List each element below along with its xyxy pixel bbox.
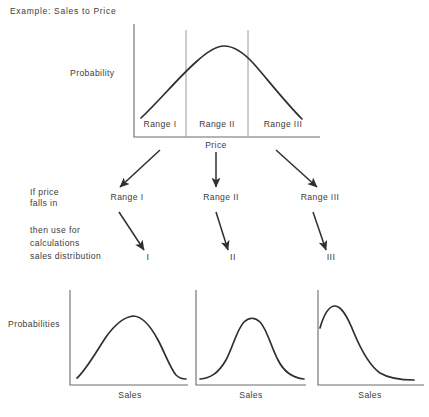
top-chart-y-axis-label: Probability <box>70 68 115 79</box>
top-chart-range-2-label: Range II <box>199 119 235 130</box>
result-arrow-1 <box>119 212 144 250</box>
branch-arrow-range-3 <box>276 150 317 187</box>
bottom-chart-3-curve <box>320 306 414 380</box>
top-chart-curve <box>141 46 302 119</box>
instruction-text-line-2: calculations <box>30 237 80 249</box>
instruction-text-line-1: then use for <box>30 224 80 236</box>
branch-arrows-level-2 <box>119 212 326 250</box>
branch-range-2-label: Range II <box>203 192 239 203</box>
diagram-vectors <box>0 0 429 417</box>
result-arrow-3 <box>313 212 326 250</box>
outcome-label-1: I <box>147 252 150 264</box>
outcome-label-2: II <box>230 252 236 264</box>
branch-range-3-label: Range III <box>301 192 339 203</box>
branch-range-1-label: Range I <box>111 192 144 203</box>
page-title: Example: Sales to Price <box>10 6 116 17</box>
branch-arrow-range-1 <box>120 150 160 187</box>
bottom-chart-3-x-axis-label: Sales <box>358 390 382 401</box>
bottom-chart-3-axes <box>318 290 424 385</box>
diagram-page: Example: Sales to Price <box>0 0 429 417</box>
result-arrow-2 <box>216 212 228 250</box>
branch-arrows-level-1 <box>120 150 317 187</box>
bottom-chart-1-axes <box>70 290 188 385</box>
instruction-text-line-3: sales distribution <box>30 250 101 262</box>
bottom-chart-2-curve <box>200 318 304 379</box>
top-chart-range-1-label: Range I <box>144 119 177 130</box>
top-chart-range-3-label: Range III <box>264 119 302 130</box>
bottom-charts-y-axis-label: Probabilities <box>8 319 60 330</box>
condition-text-line-2: falls in <box>30 197 58 209</box>
outcome-label-3: III <box>327 252 336 264</box>
bottom-chart-1-x-axis-label: Sales <box>118 390 142 401</box>
top-chart-x-axis-label: Price <box>205 140 227 151</box>
bottom-chart-2-x-axis-label: Sales <box>239 390 263 401</box>
bottom-chart-2-axes <box>196 290 306 385</box>
bottom-chart-1-curve <box>77 316 186 379</box>
